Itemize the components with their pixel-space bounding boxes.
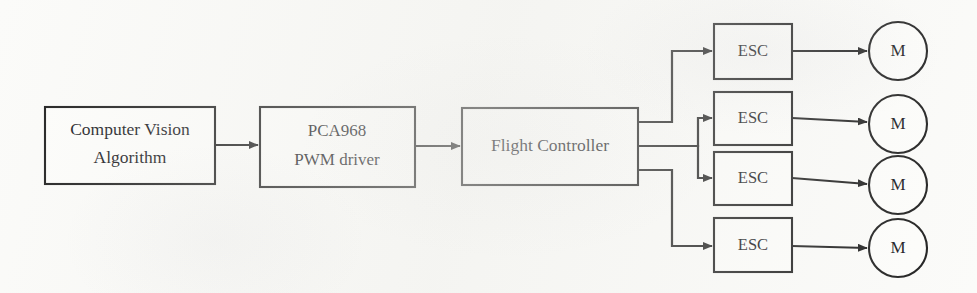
block-diagram-svg: Computer Vision Algorithm PCA968 PWM dri…: [0, 0, 977, 293]
esc-2-label: ESC: [738, 108, 768, 127]
motor-node-4[interactable]: M: [869, 219, 927, 277]
connection-fc-to-esc1: [638, 51, 712, 122]
motor-node-1[interactable]: M: [869, 22, 927, 80]
connection-esc3-to-motor3: [792, 178, 867, 184]
diagram-canvas: Computer Vision Algorithm PCA968 PWM dri…: [0, 0, 977, 293]
esc-3-label: ESC: [738, 168, 768, 187]
motor-2-label: M: [890, 114, 905, 133]
connection-fc-to-esc4: [638, 170, 712, 246]
pwm-driver-label-line1: PCA968: [308, 121, 367, 140]
esc-4-label: ESC: [738, 235, 768, 254]
esc-block-3[interactable]: ESC: [714, 152, 792, 205]
connection-esc2-to-motor2: [792, 118, 867, 122]
computer-vision-label-line1: Computer Vision: [70, 119, 190, 139]
esc-block-4[interactable]: ESC: [714, 218, 792, 272]
computer-vision-label-line2: Algorithm: [94, 147, 167, 167]
esc-1-label: ESC: [738, 41, 768, 60]
pwm-driver-box[interactable]: [260, 107, 415, 187]
esc-block-1[interactable]: ESC: [714, 24, 792, 79]
connection-fc-to-esc3: [638, 146, 712, 178]
node-flight-controller[interactable]: Flight Controller: [462, 108, 638, 185]
node-computer-vision[interactable]: Computer Vision Algorithm: [45, 107, 215, 184]
motor-1-label: M: [890, 41, 905, 60]
motor-node-2[interactable]: M: [869, 95, 927, 153]
motor-4-label: M: [890, 238, 905, 257]
motor-node-3[interactable]: M: [869, 156, 927, 214]
motor-3-label: M: [890, 175, 905, 194]
esc-block-2[interactable]: ESC: [714, 92, 792, 145]
pwm-driver-label-line2: PWM driver: [294, 150, 380, 169]
flight-controller-label: Flight Controller: [491, 135, 609, 155]
connection-esc4-to-motor4: [792, 246, 867, 248]
node-pwm-driver[interactable]: PCA968 PWM driver: [260, 107, 415, 187]
